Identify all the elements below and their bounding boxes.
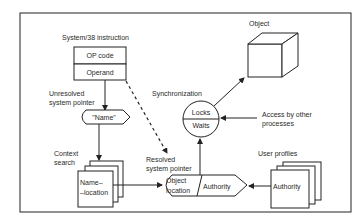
resolved-label-line1: Resolved: [146, 156, 175, 163]
instruction-title: System/38 instruction: [62, 34, 129, 42]
name-location-line2: –location: [80, 189, 108, 196]
object-label: Object: [249, 20, 269, 28]
resolved-label-line2: system pointer: [146, 165, 192, 173]
object-cube-icon: [248, 33, 298, 77]
user-profile-authority: Authority: [273, 183, 301, 191]
resolved-pointer: Object location Authority: [166, 175, 247, 196]
resolved-object-line1: Object: [166, 177, 186, 185]
name-token-label: "Name": [92, 114, 116, 121]
resolved-object-line2: location: [166, 187, 190, 194]
access-label-line2: processes: [262, 120, 294, 128]
name-token: "Name": [82, 110, 130, 124]
context-label-line2: search: [54, 159, 75, 166]
name-location-line1: Name–: [80, 179, 103, 186]
instruction-box: OP code Operand: [74, 47, 126, 80]
user-profiles-label: User profiles: [258, 150, 298, 158]
context-label-line1: Context: [54, 150, 78, 157]
unresolved-label-line2: system pointer: [49, 99, 95, 107]
opcode-label: OP code: [86, 52, 113, 59]
resolved-authority: Authority: [203, 183, 231, 191]
operand-label: Operand: [86, 69, 113, 77]
system38-addressing-diagram: System/38 instruction OP code Operand Un…: [0, 0, 362, 220]
access-label-line1: Access by other: [262, 111, 312, 119]
synchronization-label: Synchronization: [152, 90, 202, 98]
user-profiles-stack: Authority: [271, 162, 321, 208]
context-stack: Name– –location: [78, 161, 123, 207]
arrow-sync-to-object: [214, 78, 244, 106]
waits-label: Waits: [192, 122, 210, 129]
unresolved-label-line1: Unresolved: [49, 90, 85, 97]
locks-label: Locks: [192, 109, 211, 116]
sync-circle: Locks Waits: [183, 101, 219, 137]
